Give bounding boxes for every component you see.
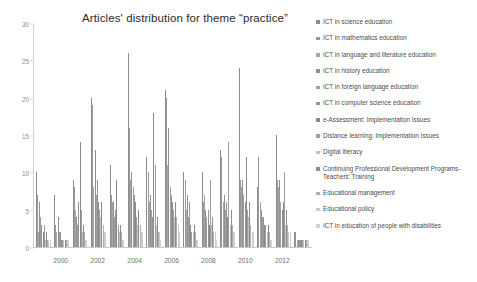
y-axis-tick-label: 25 <box>7 58 29 65</box>
year-group <box>220 24 235 247</box>
y-axis-tick-mark <box>30 136 33 137</box>
x-axis-tick-label: 2002 <box>90 257 105 264</box>
legend-item-label: ICT in education of people with disabili… <box>323 222 441 230</box>
legend-item-label: ICT in foreign language education <box>323 83 418 91</box>
legend-swatch-icon <box>316 167 320 171</box>
bar <box>105 232 106 247</box>
legend-swatch-icon <box>316 224 320 228</box>
x-axis-tick-label: 2008 <box>201 257 216 264</box>
bar <box>142 232 143 247</box>
year-group <box>110 24 125 247</box>
year-group <box>165 24 180 247</box>
legend-swatch-icon <box>316 53 320 57</box>
bar <box>86 240 87 247</box>
year-group <box>91 24 106 247</box>
year-group <box>276 24 291 247</box>
year-group <box>183 24 198 247</box>
y-axis-tick-label: 10 <box>7 170 29 177</box>
x-axis-tick-label: 2004 <box>127 257 142 264</box>
legend-item[interactable]: Digital literacy <box>316 148 474 156</box>
legend-item[interactable]: ICT in science education <box>316 18 474 26</box>
legend-item[interactable]: Distance learning: Implementation Issues <box>316 132 474 140</box>
year-group <box>239 24 254 247</box>
y-axis-tick-mark <box>30 248 33 249</box>
legend-swatch-icon <box>316 86 320 90</box>
legend-item[interactable]: Educational policy <box>316 205 474 213</box>
y-axis-tick-mark <box>30 98 33 99</box>
legend-swatch-icon <box>316 134 320 138</box>
bar <box>253 232 254 247</box>
bar <box>271 240 272 247</box>
bar <box>216 240 217 247</box>
legend-swatch-icon <box>316 208 320 212</box>
legend-item[interactable]: e-Assessment: Implementation Issues <box>316 116 474 124</box>
legend-item[interactable]: ICT in foreign language education <box>316 83 474 91</box>
bar <box>160 240 161 247</box>
x-axis-tick-label: 2010 <box>238 257 253 264</box>
y-axis-tick-label: 15 <box>7 133 29 140</box>
year-group <box>294 24 309 247</box>
legend-item[interactable]: Continuing Professional Development Prog… <box>316 165 474 181</box>
legend-item-label: Continuing Professional Development Prog… <box>323 165 474 181</box>
page-title: Articles' distribution for theme “practi… <box>60 12 310 24</box>
x-axis-line <box>33 247 312 248</box>
legend-item[interactable]: ICT in mathematics education <box>316 34 474 42</box>
y-axis-tick-mark <box>30 210 33 211</box>
year-group <box>73 24 88 247</box>
bar <box>179 232 180 247</box>
legend-item-label: e-Assessment: Implementation Issues <box>323 116 430 124</box>
legend-swatch-icon <box>316 20 320 24</box>
year-group <box>257 24 272 247</box>
plot-area: 051015202530 200020022004200620082010201… <box>33 24 312 248</box>
legend: ICT in science educationICT in mathemati… <box>316 18 474 238</box>
bar <box>50 240 51 247</box>
legend-item-label: ICT in history education <box>323 67 390 75</box>
legend-swatch-icon <box>316 37 320 41</box>
legend-item-label: ICT in mathematics education <box>323 34 407 42</box>
legend-item-label: Educational management <box>323 189 395 197</box>
legend-swatch-icon <box>316 102 320 106</box>
legend-item[interactable]: ICT in computer science education <box>316 99 474 107</box>
legend-swatch-icon <box>316 118 320 122</box>
legend-item[interactable]: ICT in history education <box>316 67 474 75</box>
bar <box>234 232 235 247</box>
legend-item-label: Educational policy <box>323 205 374 213</box>
legend-item-label: ICT in science education <box>323 18 392 26</box>
year-group <box>202 24 217 247</box>
x-axis-tick-label: 2012 <box>275 257 290 264</box>
x-axis-tick-label: 2006 <box>164 257 179 264</box>
y-axis-tick-mark <box>30 173 33 174</box>
legend-item[interactable]: Educational management <box>316 189 474 197</box>
y-axis-tick-label: 0 <box>7 245 29 252</box>
year-group <box>54 24 69 247</box>
legend-item[interactable]: ICT in education of people with disabili… <box>316 222 474 230</box>
bar <box>290 232 291 247</box>
bar-groups <box>34 24 312 247</box>
y-axis-tick-label: 30 <box>7 21 29 28</box>
chart-screenshot: Articles' distribution for theme “practi… <box>0 0 477 282</box>
y-axis-tick-label: 20 <box>7 95 29 102</box>
bar <box>68 240 69 247</box>
legend-item-label: Digital literacy <box>323 148 363 156</box>
year-group <box>128 24 143 247</box>
legend-item-label: Distance learning: Implementation Issues <box>323 132 439 140</box>
x-axis-tick-label: 2000 <box>53 257 68 264</box>
y-axis-tick-mark <box>30 61 33 62</box>
legend-swatch-icon <box>316 192 320 196</box>
legend-item-label: ICT in computer science education <box>323 99 421 107</box>
bar <box>123 240 124 247</box>
bar <box>308 240 309 247</box>
year-group <box>36 24 51 247</box>
legend-item-label: ICT in language and literature education <box>323 51 436 59</box>
legend-swatch-icon <box>316 151 320 155</box>
y-axis-tick-label: 5 <box>7 207 29 214</box>
year-group <box>146 24 161 247</box>
y-axis-tick-mark <box>30 24 33 25</box>
legend-item[interactable]: ICT in language and literature education <box>316 51 474 59</box>
bar <box>197 240 198 247</box>
legend-swatch-icon <box>316 69 320 73</box>
